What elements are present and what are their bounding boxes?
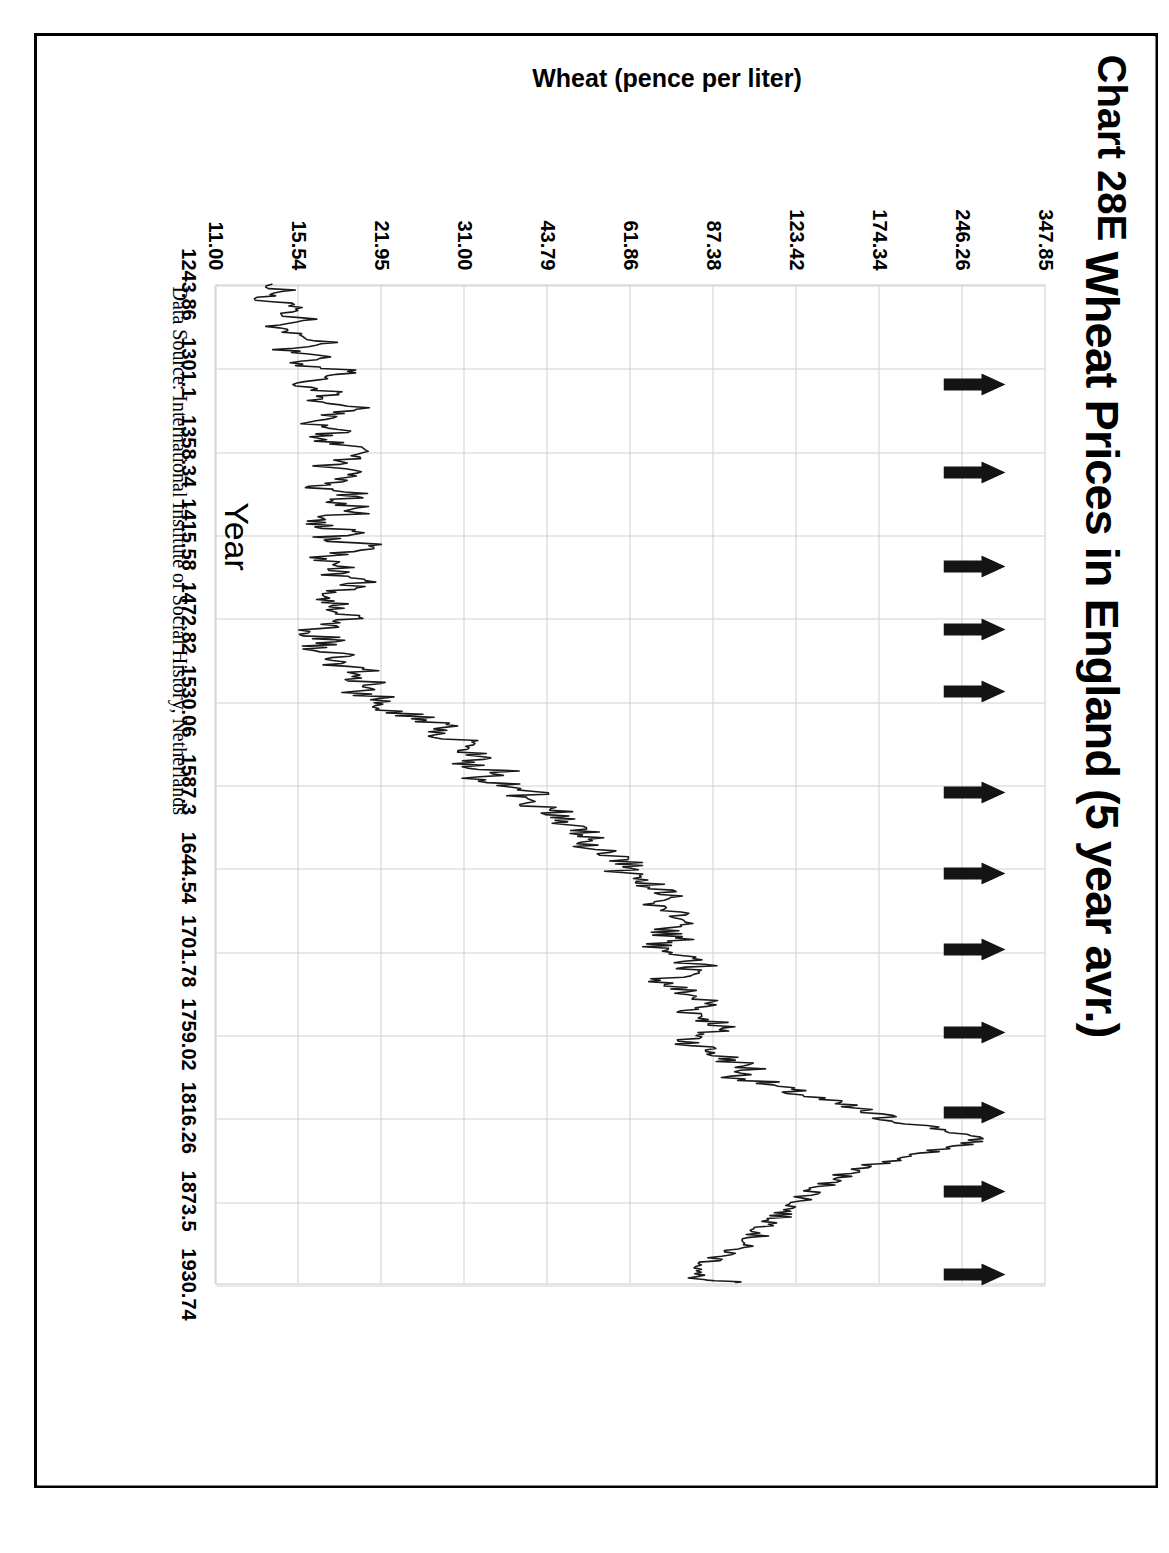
y-tick-label-5: 61.86 (619, 220, 642, 270)
y-tick-label-9: 15.54 (287, 220, 310, 270)
arrow-crisis-1520s-icon (943, 680, 1009, 702)
scanned-page: Chart 28E Wheat Prices in England (5 yea… (0, 0, 1169, 1553)
y-axis-title: Wheat (pence per liter) (387, 64, 947, 93)
arrow-crisis-1370s-icon (943, 461, 1009, 483)
arrow-crisis-1590s-icon (943, 781, 1009, 803)
y-tick-label-0: 347.85 (1034, 209, 1057, 270)
arrow-crisis-1930s-icon (943, 1263, 1009, 1285)
rotated-chart-container: Chart 28E Wheat Prices in England (5 yea… (34, 33, 1158, 1488)
y-tick-label-6: 43.79 (536, 220, 559, 270)
gridline-h-10 (214, 285, 215, 1283)
x-axis-title: Year (216, 36, 255, 1036)
chart-title: Wheat Prices in England (5 year avr.) (1074, 251, 1129, 1037)
y-tick-label-8: 21.95 (370, 220, 393, 270)
chart-figure: Chart 28E Wheat Prices in England (5 yea… (37, 36, 1155, 1485)
arrow-crisis-1440s-icon (943, 555, 1009, 577)
y-tick-label-1: 246.26 (951, 209, 974, 270)
y-tick-label-2: 174.34 (868, 209, 891, 270)
y-tick-label-3: 123.42 (785, 209, 808, 270)
wheat-price-line (216, 285, 1045, 1283)
gridline-v-12 (216, 1285, 1045, 1286)
arrow-crisis-1700s-icon (943, 938, 1009, 960)
arrow-crisis-1760s-icon (943, 1021, 1009, 1043)
arrow-crisis-1810s-icon (943, 1101, 1009, 1123)
data-source-note: Data Source: International Institute of … (167, 286, 190, 1386)
y-tick-label-4: 87.38 (702, 220, 725, 270)
arrow-crisis-1870s-icon (943, 1180, 1009, 1202)
arrow-crisis-1650s-icon (943, 862, 1009, 884)
arrow-crisis-1310s-icon (943, 373, 1009, 395)
arrow-crisis-1480s-icon (943, 618, 1009, 640)
plot-area (215, 284, 1045, 1284)
chart-number-label: Chart 28E (1088, 54, 1133, 241)
y-tick-label-7: 31.00 (452, 220, 475, 270)
